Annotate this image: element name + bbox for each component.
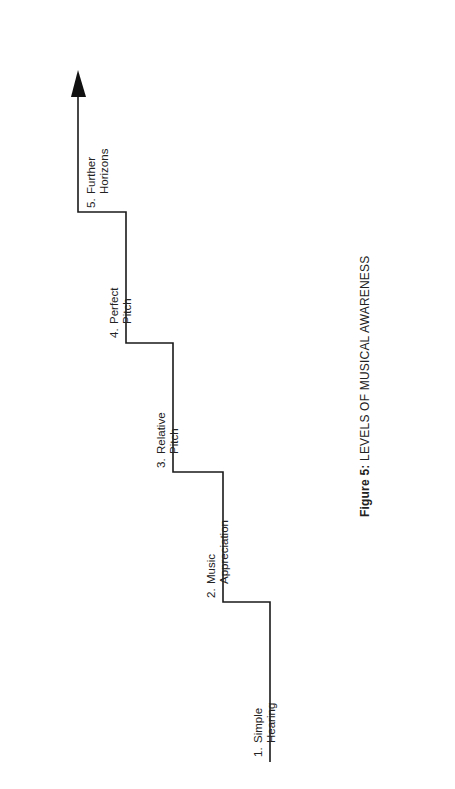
step-number: 2. [205, 584, 218, 598]
step-number: 5. [85, 194, 98, 208]
figure-number: Figure 5: [358, 465, 372, 517]
arrow-up-icon [71, 70, 86, 97]
step-label-4: 4.Perfect Pitch [108, 288, 134, 338]
step-number: 3. [155, 454, 168, 468]
figure-title: LEVELS OF MUSICAL AWARENESS [358, 256, 372, 465]
step-label-5: 5.Further Horizons [85, 149, 111, 208]
step-number: 1. [252, 743, 265, 757]
step-number: 4. [108, 324, 121, 338]
step-label-1: 1.Simple Hearing [252, 703, 278, 757]
figure-caption: Figure 5: LEVELS OF MUSICAL AWARENESS [358, 256, 372, 517]
step-label-2: 2.Music Appreciation [205, 520, 231, 598]
staircase-diagram [0, 0, 455, 789]
step-label-3: 3.Relative Pitch [155, 412, 181, 468]
